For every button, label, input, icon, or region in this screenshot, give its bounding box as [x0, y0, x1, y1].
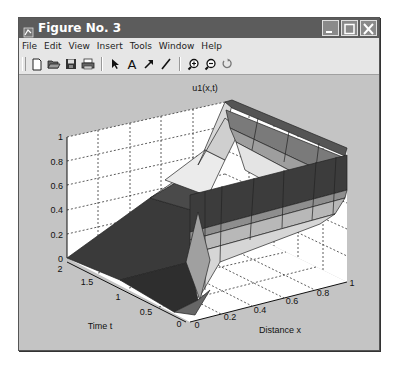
title-bar[interactable]: Figure No. 3 — [19, 18, 379, 38]
maximize-icon — [342, 22, 357, 36]
z-tick: 0.2 — [50, 230, 63, 240]
close-icon — [361, 22, 376, 36]
zoom-out-icon — [204, 58, 217, 71]
x-tick: 0.2 — [224, 312, 237, 322]
minimize-icon — [323, 22, 338, 36]
t-tick: 2 — [57, 264, 62, 274]
new-file-icon — [31, 58, 43, 71]
insert-line-button[interactable] — [158, 56, 174, 72]
menu-help[interactable]: Help — [198, 41, 226, 51]
open-file-button[interactable] — [46, 56, 62, 72]
save-disk-icon — [65, 58, 77, 70]
x-tick: 0 — [194, 320, 199, 330]
toolbar: A — [19, 54, 379, 75]
arrow-icon — [143, 58, 155, 70]
printer-icon — [81, 58, 95, 70]
menu-view[interactable]: View — [66, 41, 94, 51]
x-tick: 0.4 — [254, 305, 267, 315]
t-tick: 1 — [115, 292, 120, 302]
print-button[interactable] — [80, 56, 96, 72]
menu-window[interactable]: Window — [156, 41, 199, 51]
new-figure-button[interactable] — [29, 56, 45, 72]
x-tick: 0.8 — [317, 288, 330, 298]
z-tick: 1 — [58, 132, 63, 142]
t-tick: 0.5 — [140, 307, 153, 317]
edit-plot-button[interactable] — [107, 56, 123, 72]
open-folder-icon — [47, 58, 61, 70]
toolbar-separator — [179, 57, 181, 71]
z-tick: 0.4 — [50, 205, 63, 215]
z-tick: 0.8 — [50, 157, 63, 167]
toolbar-separator — [101, 57, 103, 71]
t-tick: 0 — [176, 319, 181, 329]
z-tick: 0.6 — [50, 181, 63, 191]
toolbar-grip[interactable] — [22, 57, 26, 71]
x-tick: 1 — [349, 278, 354, 288]
menu-edit[interactable]: Edit — [41, 41, 65, 51]
line-icon — [160, 58, 172, 70]
minimize-button[interactable] — [322, 20, 339, 36]
zoom-in-button[interactable] — [185, 56, 201, 72]
menu-bar: File Edit View Insert Tools Window Help — [19, 38, 379, 54]
menu-file[interactable]: File — [19, 41, 41, 51]
insert-text-button[interactable]: A — [124, 56, 140, 72]
zoom-out-button[interactable] — [202, 56, 218, 72]
t-axis-label: Time t — [88, 321, 113, 331]
save-button[interactable] — [63, 56, 79, 72]
t-tick: 1.5 — [81, 277, 94, 287]
insert-arrow-button[interactable] — [141, 56, 157, 72]
figure-window: Figure No. 3 File Edit View Insert Tools… — [18, 17, 380, 351]
figure-canvas[interactable]: 1 0.8 0.6 0.4 0.2 0 2 1.5 1 0.5 0 0 — [19, 75, 379, 350]
menu-insert[interactable]: Insert — [94, 41, 127, 51]
x-tick: 0.6 — [286, 296, 299, 306]
zoom-in-icon — [187, 58, 200, 71]
menu-tools[interactable]: Tools — [127, 41, 156, 51]
text-a-icon: A — [128, 57, 137, 72]
arrow-pointer-icon — [110, 58, 120, 70]
window-title: Figure No. 3 — [38, 21, 121, 35]
rotate-3d-button[interactable] — [219, 56, 235, 72]
x-axis-label: Distance x — [259, 325, 302, 335]
matlab-app-icon — [23, 23, 34, 34]
close-button[interactable] — [360, 20, 377, 36]
z-tick: 0 — [58, 254, 63, 264]
plot-title: u1(x,t) — [192, 83, 218, 93]
surface-plot[interactable]: 1 0.8 0.6 0.4 0.2 0 2 1.5 1 0.5 0 0 — [19, 75, 379, 351]
maximize-button[interactable] — [341, 20, 358, 36]
rotate-icon — [221, 58, 233, 70]
z-tick-labels: 1 0.8 0.6 0.4 0.2 0 — [50, 132, 63, 264]
